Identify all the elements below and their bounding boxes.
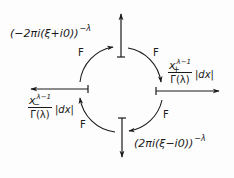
formula-top: (−2πi(ξ+i0))−λ <box>10 28 91 39</box>
axis-arrow-right <box>156 87 219 95</box>
formula-top-base: (−2πi(ξ+i0)) <box>10 27 78 40</box>
edge-label-left-to-top: F <box>78 48 84 58</box>
axis-arrow-down <box>118 118 126 157</box>
formula-right-subscript: + <box>173 66 180 74</box>
edge-label-right-to-bottom: F <box>163 110 169 120</box>
formula-left-fraction: xλ−1− Γ(λ) <box>28 95 52 120</box>
curved-arrow-right-to-bottom <box>129 100 162 131</box>
formula-right-numerator: xλ−1+ <box>168 60 192 73</box>
formula-bottom-base: (2πi(ξ−i0)) <box>134 137 193 150</box>
formula-top-exponent: −λ <box>79 24 90 33</box>
axis-arrow-up <box>117 14 125 57</box>
formula-left-subscript: − <box>33 101 40 109</box>
edge-label-bottom-to-left: F <box>80 120 86 130</box>
formula-right-measure: |dx| <box>195 69 214 80</box>
formula-left-numerator: xλ−1− <box>28 95 52 108</box>
axis-arrow-left <box>31 85 88 93</box>
formula-bottom: (2πi(ξ−i0))−λ <box>134 138 206 149</box>
formula-left: xλ−1− Γ(λ) |dx| <box>28 95 74 120</box>
curved-arrow-left-to-top <box>80 47 113 82</box>
formula-left-measure: |dx| <box>55 104 74 115</box>
formula-right-fraction: xλ−1+ Γ(λ) <box>168 60 192 85</box>
formula-right: xλ−1+ Γ(λ) |dx| <box>168 60 214 85</box>
formula-left-denominator: Γ(λ) <box>30 108 49 120</box>
formula-bottom-exponent: −λ <box>194 134 205 143</box>
formula-right-denominator: Γ(λ) <box>170 73 189 85</box>
edge-label-top-to-right: F <box>153 48 159 58</box>
diagram-canvas: (−2πi(ξ+i0))−λ (2πi(ξ−i0))−λ xλ−1+ Γ(λ) … <box>0 0 234 178</box>
